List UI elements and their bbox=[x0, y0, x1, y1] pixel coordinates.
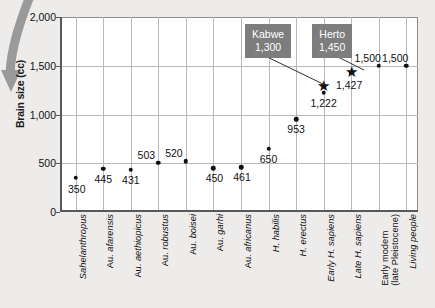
x-tick-label: Living people bbox=[408, 214, 418, 269]
y-tick-1500: 1,500 bbox=[4, 60, 56, 72]
callout-kabwe[interactable]: Kabwe 1,300 bbox=[245, 24, 291, 58]
gridline-vertical bbox=[158, 17, 159, 210]
x-tick-label-species: robustus bbox=[160, 214, 170, 250]
data-point-label: 1,500 bbox=[355, 52, 381, 64]
x-tick-label-genus: Au. bbox=[160, 250, 170, 267]
data-point bbox=[376, 64, 381, 69]
x-tick-label-genus: Au. bbox=[133, 261, 143, 278]
y-axis-tick-labels: 2,000 1,500 1,000 500 0 bbox=[0, 17, 56, 212]
callout-herto[interactable]: Herto 1,450 bbox=[312, 24, 352, 58]
brain-size-chart-figure: Brain size (cc) 2,000 1,500 1,000 500 0 … bbox=[0, 0, 435, 308]
x-tick-label: Au. robustus bbox=[160, 214, 170, 266]
x-tick-label: Au. garhi bbox=[215, 214, 225, 251]
x-tick-label: Sahelanthropus bbox=[78, 214, 88, 279]
gridline-vertical bbox=[186, 17, 187, 210]
data-point-label: 450 bbox=[206, 172, 224, 184]
x-tick-label: Early modern(late Pleistocene) bbox=[381, 214, 400, 286]
gridline-vertical bbox=[296, 17, 297, 210]
data-point bbox=[101, 166, 106, 171]
x-tick-label-species: garhi bbox=[215, 214, 225, 235]
data-point-label: 650 bbox=[260, 153, 278, 165]
x-tick-label: H. erectus bbox=[298, 214, 308, 256]
x-tick-label-genus: Au. bbox=[188, 238, 198, 255]
plot-area: 3504454315035204504616509531,2221,4271,5… bbox=[60, 17, 418, 212]
x-tick-label: Au. africanus bbox=[243, 214, 253, 268]
y-tick-mark bbox=[56, 212, 60, 213]
x-tick-label: Au. boisei bbox=[188, 214, 198, 255]
y-tick-0: 0 bbox=[4, 206, 56, 218]
data-point bbox=[239, 165, 244, 170]
gridline-vertical bbox=[76, 17, 77, 210]
data-point-label: 445 bbox=[95, 173, 113, 185]
gridline-horizontal bbox=[62, 115, 418, 116]
data-point-label: 1,500 bbox=[382, 52, 408, 64]
data-point bbox=[266, 146, 271, 151]
data-point-label: 1,222 bbox=[310, 97, 336, 109]
data-point-label: 350 bbox=[68, 183, 86, 195]
x-tick-label: Early H. sapiens bbox=[326, 214, 336, 282]
data-point-label: 503 bbox=[138, 149, 156, 161]
data-point bbox=[129, 168, 134, 173]
x-tick-label-species: boisei bbox=[188, 214, 198, 238]
x-tick-label-species: africanus bbox=[243, 214, 253, 252]
x-tick-label-line1: Early modern bbox=[381, 214, 391, 286]
data-point bbox=[404, 64, 409, 69]
data-point-label: 1,427 bbox=[336, 79, 362, 91]
x-tick-label-genus: Au. bbox=[243, 252, 253, 269]
data-point-label: 461 bbox=[233, 171, 251, 183]
gridline-horizontal bbox=[62, 66, 418, 67]
plot-inner: 3504454315035204504616509531,2221,4271,5… bbox=[62, 17, 418, 210]
y-tick-500: 500 bbox=[4, 157, 56, 169]
data-point bbox=[156, 161, 161, 166]
x-tick-label: Au. afarensis bbox=[105, 214, 115, 268]
data-point bbox=[74, 176, 79, 181]
data-point bbox=[211, 166, 216, 171]
data-point bbox=[294, 117, 299, 122]
data-point-label: 431 bbox=[122, 174, 140, 186]
x-tick-label: H. habilis bbox=[271, 214, 281, 252]
x-tick-label-species: afarensis bbox=[105, 214, 115, 252]
x-tick-label-genus: Au. bbox=[105, 252, 115, 269]
plot-top-border bbox=[62, 17, 418, 18]
star-marker-kabwe: ★ bbox=[317, 78, 330, 93]
x-tick-label-genus: Au. bbox=[215, 235, 225, 252]
callout-kabwe-name: Kabwe bbox=[252, 28, 284, 41]
callout-kabwe-value: 1,300 bbox=[252, 41, 284, 54]
gridline-vertical bbox=[406, 17, 407, 210]
gridline-vertical bbox=[379, 17, 380, 210]
y-tick-2000: 2,000 bbox=[4, 11, 56, 23]
data-point-label: 520 bbox=[165, 147, 183, 159]
data-point bbox=[184, 159, 189, 164]
callout-herto-value: 1,450 bbox=[319, 41, 345, 54]
callout-herto-name: Herto bbox=[319, 28, 345, 41]
plot-right-border bbox=[417, 17, 418, 210]
x-tick-label-line2: (late Pleistocene) bbox=[390, 214, 400, 286]
x-tick-label-species: aethiopicus bbox=[133, 214, 143, 261]
y-tick-1000: 1,000 bbox=[4, 109, 56, 121]
data-point-label: 953 bbox=[287, 123, 305, 135]
star-marker-herto: ★ bbox=[345, 63, 358, 78]
x-tick-label: Au. aethiopicus bbox=[133, 214, 143, 278]
x-axis-tick-labels: SahelanthropusAu. afarensisAu. aethiopic… bbox=[60, 214, 418, 308]
x-tick-label: Late H. sapiens bbox=[353, 214, 363, 279]
